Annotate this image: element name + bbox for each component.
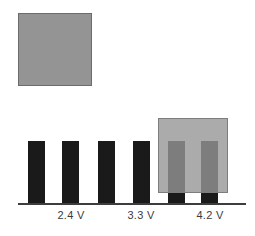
bar-4: [133, 141, 150, 203]
x-tick-label-1: 2.4 V: [57, 209, 84, 221]
bar-3: [98, 141, 115, 203]
x-tick-label-2: 3.3 V: [127, 209, 154, 221]
x-axis-line: [18, 203, 246, 205]
bar-chart: 2.4 V 3.3 V 4.2 V: [0, 0, 255, 236]
bar-2: [62, 141, 79, 203]
bar-1: [28, 141, 45, 203]
x-tick-label-3: 4.2 V: [196, 209, 223, 221]
highlight-overlay: [158, 118, 228, 193]
figure-canvas: 2.4 V 3.3 V 4.2 V: [0, 0, 255, 236]
